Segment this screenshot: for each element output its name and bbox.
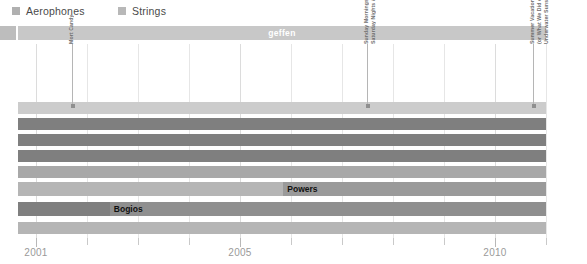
annotation-label: Saturday Nights & — [370, 0, 376, 44]
bar-label: Powers — [283, 182, 317, 196]
axis-tick — [138, 238, 139, 245]
annotation-text-block: Saturday Nights &Sunday Mornings — [369, 44, 383, 91]
axis-tick — [342, 238, 343, 245]
bar-row: Powers — [0, 182, 587, 196]
annotation-stem — [533, 44, 534, 106]
axis-tick — [240, 238, 241, 247]
bar-row — [0, 102, 587, 114]
axis-tick — [546, 238, 547, 245]
annotation-label: (or What We Did on Our — [536, 0, 542, 44]
bar-row — [0, 150, 587, 162]
annotation-stem — [367, 44, 368, 106]
annotation-endpoint-icon — [71, 104, 75, 108]
bar-segment[interactable] — [18, 102, 546, 114]
bar-segment[interactable] — [18, 222, 546, 234]
annotation-label: Underwater Sunshine — [543, 0, 549, 44]
axis-tick — [87, 238, 88, 245]
chart-legend: AerophonesStrings — [0, 0, 587, 22]
bar-segment[interactable] — [18, 150, 546, 162]
axis-tick — [495, 238, 496, 247]
x-axis: 200120052010 — [0, 238, 587, 264]
axis-tick — [189, 238, 190, 245]
bar-row — [0, 118, 587, 130]
bar-row — [0, 134, 587, 146]
annotation-stem — [72, 44, 73, 106]
legend-swatch-icon — [118, 7, 126, 15]
bar-row — [0, 222, 587, 234]
legend-item-label: Strings — [132, 6, 166, 16]
axis-tick-label: 2010 — [483, 247, 506, 258]
axis-tick-label: 2001 — [24, 247, 47, 258]
top-band[interactable]: geffen — [18, 26, 546, 40]
axis-tick — [36, 238, 37, 247]
bar-segment[interactable] — [18, 202, 110, 216]
annotation-label: Sunday Mornings — [363, 0, 369, 44]
axis-tick — [291, 238, 292, 245]
bar-segment-bogios[interactable] — [110, 202, 546, 216]
bar-segment[interactable] — [18, 166, 546, 178]
legend-item-strings[interactable]: Strings — [118, 3, 166, 19]
bar-segment[interactable] — [18, 118, 546, 130]
annotation-label: Summer Vacation) — [529, 0, 535, 44]
axis-tick — [444, 238, 445, 245]
bar-segment-powers[interactable] — [283, 182, 546, 196]
chart-canvas: AerophonesStrings geffen PowersBogiosMor… — [0, 0, 587, 264]
annotation-label: Mort Candy — [68, 14, 74, 44]
bar-row: Bogios — [0, 202, 587, 216]
bar-segment[interactable] — [18, 182, 283, 196]
legend-item-label: Aerophones — [26, 6, 85, 16]
plot-area: PowersBogiosMort CandySaturday Nights &S… — [0, 44, 587, 240]
bar-label: Bogios — [110, 202, 143, 216]
top-band-label: geffen — [18, 26, 546, 40]
annotation-text-block: Mort Candy — [74, 44, 81, 74]
annotation-text-block: Underwater Sunshine(or What We Did on Ou… — [535, 44, 556, 105]
axis-tick-label: 2005 — [228, 247, 251, 258]
axis-tick — [393, 238, 394, 245]
bar-row — [0, 166, 587, 178]
legend-swatch-icon — [12, 7, 20, 15]
top-band-stub — [0, 26, 16, 40]
bar-segment[interactable] — [18, 134, 546, 146]
annotation-endpoint-icon — [366, 104, 370, 108]
